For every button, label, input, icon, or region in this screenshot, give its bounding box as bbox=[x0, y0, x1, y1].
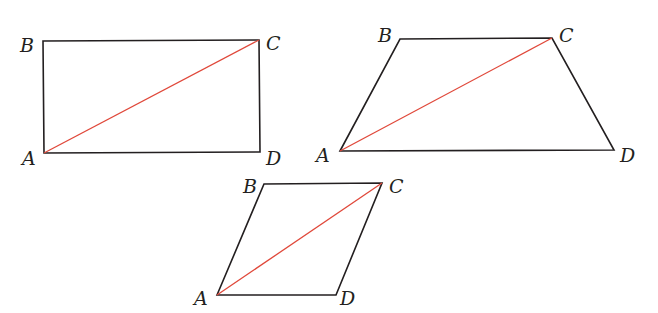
parallelogram-diagonal-ac bbox=[217, 183, 382, 295]
trapezoid-label-b: B bbox=[377, 24, 392, 46]
parallelogram-abcd: A B C D bbox=[192, 175, 404, 309]
rectangle-label-a: A bbox=[20, 147, 36, 169]
parallelogram-label-a: A bbox=[192, 287, 208, 309]
parallelogram-label-c: C bbox=[389, 175, 404, 197]
parallelogram-label-b: B bbox=[242, 175, 257, 197]
parallelogram-label-d: D bbox=[339, 287, 355, 309]
trapezoid-label-a: A bbox=[314, 144, 330, 166]
rectangle-diagonal-ac bbox=[44, 40, 259, 153]
trapezoid-label-d: D bbox=[619, 144, 635, 166]
rectangle-label-b: B bbox=[19, 34, 34, 56]
rectangle-abcd: A B C D bbox=[19, 32, 281, 169]
trapezoid-abcd: A B C D bbox=[314, 24, 635, 166]
trapezoid-outline bbox=[340, 38, 614, 151]
trapezoid-diagonal-ac bbox=[340, 38, 552, 151]
quadrilateral-diagonals-figure: A B C D A B C D A B C D bbox=[0, 0, 658, 313]
trapezoid-label-c: C bbox=[559, 24, 574, 46]
rectangle-label-d: D bbox=[265, 147, 281, 169]
rectangle-label-c: C bbox=[266, 32, 281, 54]
